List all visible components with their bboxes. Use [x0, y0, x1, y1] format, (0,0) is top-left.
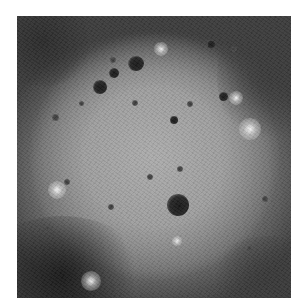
bright-spot	[229, 91, 243, 105]
crater	[262, 196, 268, 202]
crater	[170, 116, 178, 124]
crater	[247, 246, 252, 251]
crater	[231, 46, 237, 52]
crater	[79, 101, 84, 106]
bright-spot	[48, 181, 66, 199]
crater	[177, 166, 183, 172]
crater	[219, 92, 228, 101]
crater	[147, 174, 153, 180]
crater	[93, 80, 107, 94]
crater	[128, 56, 144, 71]
crater	[108, 204, 114, 210]
bright-spot	[154, 42, 168, 56]
crater	[45, 226, 50, 231]
bright-spot	[239, 118, 261, 140]
bright-spot	[81, 271, 101, 291]
bright-spot	[172, 236, 182, 246]
dark-terrain-top-left	[17, 16, 97, 86]
crater	[207, 40, 215, 48]
crater	[110, 57, 116, 63]
crater	[132, 100, 138, 106]
crater	[64, 179, 70, 185]
crater	[52, 114, 59, 121]
large-crater	[167, 194, 189, 216]
crater	[109, 68, 119, 78]
crater	[187, 101, 193, 107]
planetary-surface-photo	[17, 16, 291, 298]
